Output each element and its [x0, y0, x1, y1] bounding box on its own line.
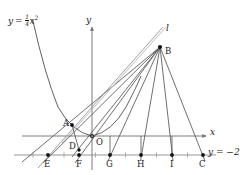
- x-axis-label: x: [210, 128, 215, 137]
- point-label-C: C: [199, 160, 206, 169]
- dot-A: [70, 123, 74, 127]
- horizontal-line-label: y = −2: [208, 148, 240, 157]
- ray-B-to-D: [72, 47, 160, 157]
- ray-B-through-A: [22, 47, 160, 162]
- ray-B-to-H: [141, 47, 161, 161]
- point-label-B: B: [165, 47, 171, 56]
- dot-H: [139, 153, 143, 157]
- point-label-A: A: [63, 119, 69, 128]
- dot-C: [201, 153, 205, 157]
- chord-A-B: [62, 27, 166, 143]
- line-y-equals-minus-2: [14, 152, 216, 157]
- point-label-O: O: [96, 138, 103, 147]
- point-label-D: D: [69, 142, 76, 151]
- line-l-label: l: [166, 24, 169, 33]
- ray-B-to-F: [75, 47, 160, 163]
- point-label-E: E: [44, 160, 50, 169]
- dot-E: [46, 153, 50, 157]
- eq-sign: =: [15, 16, 23, 26]
- point-label-H: H: [137, 160, 144, 169]
- eq-exponent: 2: [35, 14, 39, 21]
- ray-B-to-G: [108, 47, 160, 161]
- dot-F: [77, 153, 81, 157]
- parabola-equation-label: y=14x2: [8, 14, 38, 27]
- eq-lhs: y: [8, 16, 13, 26]
- pencil-of-lines-through-B: [22, 47, 205, 163]
- point-label-I: I: [170, 160, 173, 169]
- dot-D: [77, 148, 80, 151]
- dot-I: [170, 153, 174, 157]
- point-label-F: F: [76, 160, 82, 169]
- geometry-figure: y=14x2 y x l y = −2 A B O D E F G H I C: [0, 0, 250, 175]
- y-axis-label: y: [86, 16, 91, 25]
- parabola-curve: [33, 19, 142, 136]
- dot-B: [158, 45, 162, 49]
- point-label-G: G: [106, 160, 113, 169]
- dot-G: [108, 153, 112, 157]
